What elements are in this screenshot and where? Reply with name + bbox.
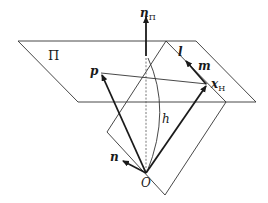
label-p: p bbox=[90, 64, 99, 78]
label-xh: xH bbox=[210, 77, 225, 93]
geometry-diagram: Π nΠ p l m xH h n O bbox=[0, 0, 268, 203]
label-normal-plane-sub: Π bbox=[149, 13, 156, 22]
label-normal-plane: nΠ bbox=[140, 6, 156, 22]
label-m: m bbox=[198, 59, 211, 73]
label-origin: O bbox=[141, 176, 151, 190]
label-n: n bbox=[110, 150, 119, 164]
vector-xh-arrow bbox=[146, 86, 206, 173]
label-normal-plane-main: n bbox=[140, 6, 149, 20]
label-h: h bbox=[162, 112, 170, 126]
vector-p-arrow bbox=[102, 75, 146, 173]
label-l: l bbox=[178, 45, 183, 59]
label-xh-sub: H bbox=[218, 84, 225, 93]
label-plane: Π bbox=[48, 48, 59, 63]
